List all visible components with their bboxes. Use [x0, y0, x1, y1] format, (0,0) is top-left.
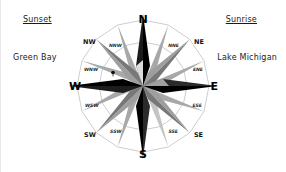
compass-label-nne: NNE [168, 44, 179, 49]
compass-label-southeast: SE [194, 132, 203, 139]
compass-label-west: W [69, 81, 81, 92]
compass-label-north: N [138, 14, 147, 25]
compass-label-east: E [210, 81, 218, 92]
compass-label-ene: ENE [193, 68, 203, 73]
sunrise-heading: Sunrise [226, 15, 257, 24]
green-bay-label: Green Bay [13, 53, 57, 62]
compass-label-sse: SSE [168, 130, 178, 135]
compass-label-wsw: WSW [85, 104, 98, 109]
compass-label-ssw: SSW [110, 130, 122, 135]
wnw-marker-icon [110, 70, 116, 77]
compass-label-northeast: NE [194, 39, 204, 46]
compass-label-south: S [139, 149, 147, 160]
compass-rose-graphic [63, 6, 223, 166]
compass-label-northwest: NW [83, 39, 96, 46]
compass-label-ese: ESE [192, 104, 202, 109]
compass-label-southwest: SW [84, 132, 96, 139]
compass-rose-figure: Sunset Green Bay Sunrise Lake Michigan [0, 0, 286, 172]
compass-rose: N S W E NW NE SW SE NNW NNE WNW ENE WSW … [63, 6, 223, 166]
lake-michigan-label: Lake Michigan [217, 53, 277, 62]
compass-label-nnw: NNW [109, 44, 122, 49]
sunset-heading: Sunset [23, 15, 52, 24]
compass-label-wnw: WNW [84, 68, 98, 73]
